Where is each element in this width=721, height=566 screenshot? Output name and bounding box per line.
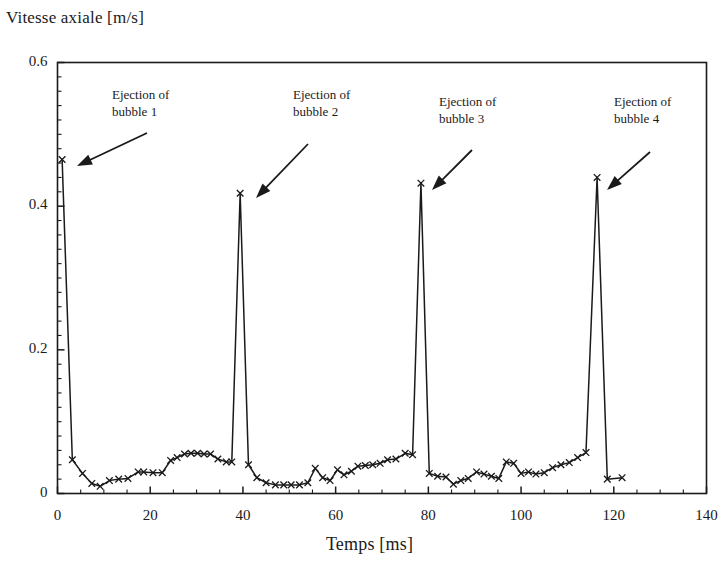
data-marker: [334, 466, 341, 473]
annotation-line-2: bubble 3: [439, 110, 496, 127]
annotation-arrow-bubble-3: [432, 150, 472, 190]
arrow-shaft: [617, 152, 650, 181]
annotation-bubble-3: Ejection ofbubble 3: [439, 93, 496, 127]
data-marker: [574, 454, 581, 461]
axis-layer: [58, 63, 707, 494]
annotation-line-2: bubble 4: [614, 110, 671, 127]
y-tick-label: 0.6: [0, 53, 48, 70]
annotation-arrow-bubble-4: [607, 152, 650, 190]
x-axis-label: Temps [ms]: [0, 534, 721, 555]
annotation-arrow-bubble-1: [77, 133, 147, 166]
annotation-arrow-bubble-2: [256, 144, 308, 198]
arrow-head: [77, 155, 93, 166]
data-series-layer: [59, 156, 626, 489]
x-tick-label: 80: [398, 507, 458, 524]
annotation-line-2: bubble 1: [112, 103, 169, 120]
x-tick-label: 0: [28, 507, 88, 524]
data-line-0: [62, 159, 622, 486]
plot-frame: [58, 63, 707, 494]
y-tick-label: 0.4: [0, 196, 48, 213]
data-marker: [89, 480, 96, 487]
data-marker: [348, 468, 355, 475]
y-tick-label: 0.2: [0, 340, 48, 357]
x-axis-label-text: Temps [ms]: [326, 534, 413, 555]
arrow-shaft: [265, 144, 308, 189]
annotation-bubble-1: Ejection ofbubble 1: [112, 86, 169, 120]
y-tick-label: 0: [0, 484, 48, 501]
x-tick-label: 100: [491, 507, 551, 524]
arrow-shaft: [441, 150, 472, 181]
data-marker: [174, 454, 181, 461]
chart-canvas: [0, 0, 721, 566]
annotation-line-1: Ejection of: [614, 93, 671, 110]
x-tick-label: 60: [306, 507, 366, 524]
data-marker: [167, 457, 174, 464]
annotation-bubble-2: Ejection ofbubble 2: [293, 86, 350, 120]
x-tick-label: 120: [584, 507, 644, 524]
data-marker: [79, 470, 86, 477]
x-tick-label: 40: [213, 507, 273, 524]
data-marker: [319, 474, 326, 481]
data-marker: [254, 474, 261, 481]
data-marker: [450, 481, 457, 488]
data-marker: [97, 483, 104, 490]
data-marker: [215, 456, 222, 463]
annotation-arrow-layer: [77, 133, 650, 198]
x-tick-label: 20: [120, 507, 180, 524]
data-marker: [341, 472, 348, 479]
data-markers-0: [59, 156, 626, 489]
annotation-line-1: Ejection of: [112, 86, 169, 103]
data-marker: [312, 465, 319, 472]
annotation-bubble-4: Ejection ofbubble 4: [614, 93, 671, 127]
arrow-shaft: [89, 133, 147, 160]
annotation-line-1: Ejection of: [439, 93, 496, 110]
annotation-line-1: Ejection of: [293, 86, 350, 103]
data-marker: [327, 477, 334, 484]
figure: Vitesse axiale [m/s] 00.20.40.6020406080…: [0, 0, 721, 566]
annotation-line-2: bubble 2: [293, 103, 350, 120]
x-tick-label: 140: [677, 507, 721, 524]
data-marker: [549, 464, 556, 471]
